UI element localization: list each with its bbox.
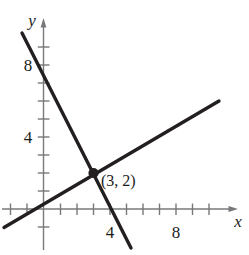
y-tick-label-4: 4: [24, 128, 33, 147]
x-axis-label: x: [233, 212, 242, 231]
graph-canvas: y x 8 4 4 8 (3, 2): [0, 0, 249, 255]
steep-decreasing-line: [22, 33, 131, 248]
intersection-point-marker: [88, 168, 98, 178]
plotted-lines-group: [4, 33, 219, 248]
y-axis-arrowhead: [41, 18, 47, 28]
axes-group: [2, 18, 238, 250]
x-tick-label-8: 8: [172, 223, 181, 242]
y-axis-label: y: [26, 11, 36, 30]
intersection-point-label: (3, 2): [101, 172, 136, 190]
coordinate-graph-figure: y x 8 4 4 8 (3, 2): [0, 0, 249, 255]
y-tick-label-8: 8: [24, 56, 33, 75]
x-tick-label-4: 4: [106, 223, 115, 242]
